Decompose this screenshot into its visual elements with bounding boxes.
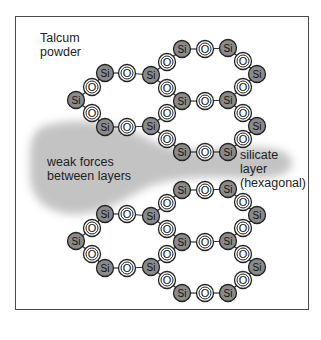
svg-text:Si: Si: [178, 147, 187, 158]
silicon-atom: Si: [97, 65, 114, 82]
svg-text:Si: Si: [147, 121, 156, 132]
oxygen-atom: O: [84, 246, 101, 263]
oxygen-atom: O: [197, 285, 214, 302]
svg-text:O: O: [163, 274, 172, 286]
svg-text:O: O: [88, 248, 97, 260]
svg-text:Si: Si: [147, 70, 156, 81]
svg-text:O: O: [88, 107, 97, 119]
svg-text:O: O: [163, 223, 172, 235]
silicon-atom: Si: [174, 41, 191, 58]
silicon-atom: Si: [220, 92, 237, 109]
silicon-atom: Si: [97, 119, 114, 136]
silicate-line-2: layer: [240, 162, 306, 176]
silicon-atom: Si: [143, 67, 160, 84]
silicon-atom: Si: [68, 233, 85, 250]
svg-text:Si: Si: [178, 96, 187, 107]
weak-forces-line-1: weak forces: [47, 155, 131, 169]
oxygen-atom: O: [197, 93, 214, 110]
oxygen-atom: O: [159, 80, 176, 97]
svg-text:Si: Si: [178, 237, 187, 248]
silicon-atom: Si: [174, 234, 191, 251]
svg-text:O: O: [163, 248, 172, 260]
silicon-atom: Si: [249, 66, 266, 83]
oxygen-atom: O: [119, 260, 136, 277]
svg-text:O: O: [201, 43, 210, 55]
svg-text:Si: Si: [224, 184, 233, 195]
oxygen-atom: O: [119, 206, 136, 223]
svg-text:Si: Si: [178, 185, 187, 196]
svg-text:Si: Si: [72, 236, 81, 247]
svg-text:O: O: [239, 133, 248, 145]
svg-text:O: O: [239, 81, 248, 93]
silicon-atom: Si: [249, 259, 266, 276]
silicon-atom: Si: [143, 259, 160, 276]
silicate-line-1: silicate: [240, 148, 306, 162]
oxygen-atom: O: [159, 221, 176, 238]
oxygen-atom: O: [119, 65, 136, 82]
oxygen-atom: O: [84, 220, 101, 237]
oxygen-atom: O: [159, 246, 176, 263]
svg-text:O: O: [201, 236, 210, 248]
svg-text:O: O: [239, 55, 248, 67]
silicon-atom: Si: [68, 92, 85, 109]
oxygen-atom: O: [159, 195, 176, 212]
svg-text:O: O: [239, 222, 248, 234]
weak-forces-label: weak forces between layers: [47, 155, 131, 183]
svg-text:Si: Si: [101, 209, 110, 220]
oxygen-atom: O: [119, 119, 136, 136]
silicon-atom: Si: [249, 118, 266, 135]
oxygen-atom: O: [159, 131, 176, 148]
oxygen-atom: O: [84, 105, 101, 122]
oxygen-atom: O: [235, 53, 252, 70]
oxygen-atom: O: [197, 182, 214, 199]
silicon-atom: Si: [220, 285, 237, 302]
svg-text:O: O: [163, 133, 172, 145]
svg-text:Si: Si: [253, 262, 262, 273]
svg-text:O: O: [201, 287, 210, 299]
svg-text:Si: Si: [147, 211, 156, 222]
svg-text:O: O: [123, 67, 132, 79]
diagram-title: Talcum powder: [40, 31, 81, 59]
svg-text:O: O: [201, 146, 210, 158]
silicon-atom: Si: [249, 207, 266, 224]
title-line-2: powder: [40, 45, 81, 59]
svg-text:Si: Si: [224, 236, 233, 247]
oxygen-atom: O: [197, 41, 214, 58]
silicon-atom: Si: [220, 40, 237, 57]
silicate-line-3: (hexagonal): [240, 176, 306, 190]
silicon-atom: Si: [220, 181, 237, 198]
oxygen-atom: O: [197, 144, 214, 161]
svg-text:Si: Si: [224, 147, 233, 158]
svg-text:O: O: [239, 196, 248, 208]
svg-text:O: O: [123, 208, 132, 220]
silicon-atom: Si: [97, 206, 114, 223]
svg-text:O: O: [163, 82, 172, 94]
svg-text:Si: Si: [178, 288, 187, 299]
svg-text:O: O: [239, 274, 248, 286]
oxygen-atom: O: [235, 246, 252, 263]
svg-text:O: O: [123, 121, 132, 133]
silicon-atom: Si: [174, 182, 191, 199]
svg-text:Si: Si: [101, 68, 110, 79]
silicon-atom: Si: [174, 285, 191, 302]
svg-text:Si: Si: [178, 44, 187, 55]
silicon-atom: Si: [97, 260, 114, 277]
svg-text:O: O: [201, 184, 210, 196]
svg-text:Si: Si: [101, 122, 110, 133]
svg-text:O: O: [163, 56, 172, 68]
silicon-atom: Si: [174, 144, 191, 161]
svg-text:O: O: [163, 197, 172, 209]
oxygen-atom: O: [235, 79, 252, 96]
svg-text:O: O: [88, 222, 97, 234]
svg-text:Si: Si: [253, 210, 262, 221]
svg-text:O: O: [239, 107, 248, 119]
svg-text:O: O: [88, 81, 97, 93]
svg-text:Si: Si: [224, 95, 233, 106]
oxygen-atom: O: [159, 272, 176, 289]
oxygen-atom: O: [235, 105, 252, 122]
oxygen-atom: O: [235, 272, 252, 289]
oxygen-atom: O: [235, 194, 252, 211]
silicon-atom: Si: [220, 233, 237, 250]
svg-text:O: O: [123, 262, 132, 274]
oxygen-atom: O: [235, 220, 252, 237]
